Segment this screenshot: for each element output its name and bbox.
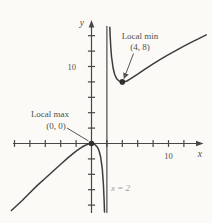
y-axis-label: y [79, 18, 85, 28]
function-plot: y x 10 10 Local min (4, 8) Local max (0,… [0, 0, 212, 223]
asymptote-label: x = 2 [110, 183, 131, 193]
x-axis-label: x [197, 149, 203, 159]
local-min-label: Local min [122, 31, 159, 41]
local-max-coord-label: (0, 0) [46, 121, 66, 131]
local-max-leader-line [67, 128, 89, 141]
local-min-leader-arrow [124, 54, 134, 79]
x-tick-label-10: 10 [164, 151, 173, 161]
y-tick-label-10: 10 [68, 62, 77, 72]
local-max-label: Local max [31, 109, 70, 119]
function-graph-figure: y x 10 10 Local min (4, 8) Local max (0,… [0, 0, 212, 223]
local-min-coord-label: (4, 8) [130, 42, 150, 52]
leader-lines [67, 54, 134, 142]
function-curve [11, 27, 206, 212]
